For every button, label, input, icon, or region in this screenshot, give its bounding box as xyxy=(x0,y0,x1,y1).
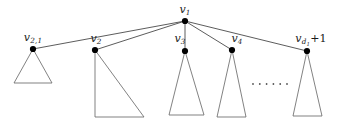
subtree-triangle-v4 xyxy=(217,50,246,117)
vertex-label-v1: v1 xyxy=(179,4,190,15)
root-edge-group xyxy=(33,21,307,51)
ellipsis-dot xyxy=(279,83,281,85)
vertex-label-v2_1: v2,1 xyxy=(24,32,42,43)
subtree-triangle-group xyxy=(14,49,322,117)
subtree-triangle-v2 xyxy=(95,50,144,117)
ellipsis-dots xyxy=(252,83,288,85)
tree-diagram-figure: v1v2,1v2v3v4vd1+1 xyxy=(0,0,340,121)
tree-edge-vd1plus1 xyxy=(185,21,307,51)
tree-edge-v2_1 xyxy=(33,21,185,49)
ellipsis-dot xyxy=(286,83,288,85)
ellipsis-dot xyxy=(273,83,275,85)
subtree-triangle-v2_1 xyxy=(14,49,52,83)
vertex-v2_1 xyxy=(30,46,36,52)
vertex-v1 xyxy=(182,18,188,24)
tree-edge-v4 xyxy=(185,21,232,50)
subtree-triangle-v3 xyxy=(169,51,204,115)
vertex-label-v3: v3 xyxy=(174,33,185,44)
vertex-v4 xyxy=(229,47,235,53)
ellipsis-dot xyxy=(252,83,254,85)
vertex-label-v4: v4 xyxy=(231,33,242,44)
vertex-vd1plus1 xyxy=(304,48,310,54)
subtree-triangle-vd1plus1 xyxy=(293,51,322,116)
vertex-v2 xyxy=(92,47,98,53)
vertex-v3 xyxy=(182,48,188,54)
ellipsis-dot xyxy=(266,83,268,85)
ellipsis-dot xyxy=(259,83,261,85)
tree-diagram-canvas xyxy=(0,0,340,121)
vertex-label-v2: v2 xyxy=(90,33,101,44)
vertex-label-vd1plus1: vd1+1 xyxy=(295,33,327,44)
